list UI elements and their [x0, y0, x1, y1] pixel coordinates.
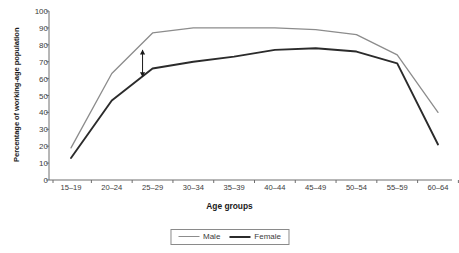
legend-line-female-icon — [229, 236, 250, 238]
legend-label-female: Female — [254, 232, 281, 241]
x-tick-label: 20–24 — [90, 183, 134, 192]
x-tick-label: 35–39 — [212, 183, 256, 192]
legend-label-male: Male — [203, 232, 220, 241]
legend-item-female: Female — [229, 232, 281, 241]
x-tick-label: 40–44 — [253, 183, 297, 192]
legend-item-male: Male — [178, 232, 220, 241]
x-axis-title: Age groups — [0, 201, 459, 211]
x-tick-label: 55–59 — [375, 183, 419, 192]
x-tick-label: 15–19 — [49, 183, 93, 192]
plot-area — [0, 0, 459, 253]
series-line-male — [71, 28, 438, 148]
x-tick-label: 50–54 — [334, 183, 378, 192]
x-tick-label: 60–64 — [416, 183, 459, 192]
x-tick-label: 45–49 — [294, 183, 338, 192]
legend-line-male-icon — [178, 236, 199, 237]
arrow-head — [140, 50, 145, 55]
gender-gap-arrow — [140, 50, 145, 77]
x-tick-label: 30–34 — [171, 183, 215, 192]
x-tick-label: 25–29 — [131, 183, 175, 192]
chart-legend: Male Female — [170, 229, 289, 245]
line-chart-figure: Percentage of working-age population 010… — [0, 0, 459, 253]
series-line-female — [71, 48, 438, 158]
x-axis-tick-labels: 15–1920–2425–2930–3435–3940–4445–4950–54… — [0, 183, 459, 197]
axis-lines — [49, 11, 452, 180]
